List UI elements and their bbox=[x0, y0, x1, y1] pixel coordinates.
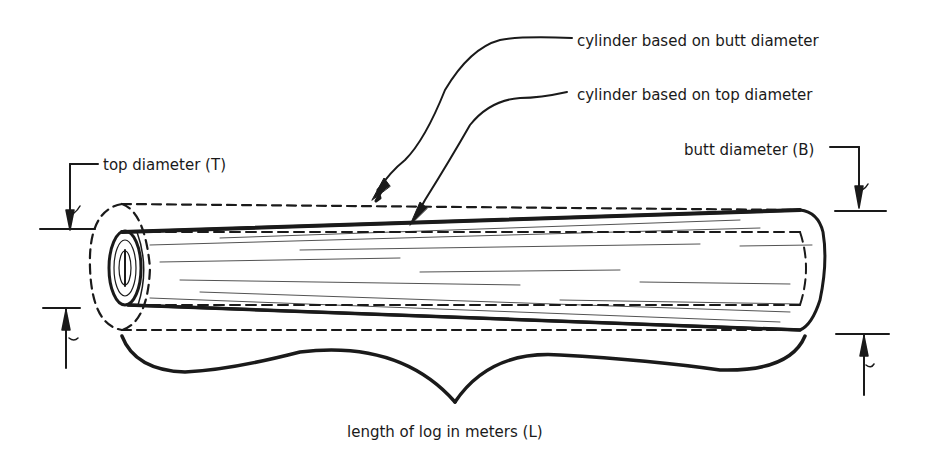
log-body bbox=[122, 210, 825, 330]
length-label: length of log in meters (L) bbox=[347, 423, 543, 441]
length-brace bbox=[122, 336, 805, 402]
top-cylinder-label: cylinder based on top diameter bbox=[577, 86, 813, 104]
log-diagram bbox=[0, 0, 933, 462]
log-top-end bbox=[109, 231, 144, 305]
top-diameter-label: top diameter (T) bbox=[103, 156, 226, 174]
butt-diameter-label: butt diameter (B) bbox=[684, 141, 814, 159]
butt-diameter-dimension bbox=[830, 147, 889, 395]
top-cylinder-leader-arrow bbox=[410, 92, 567, 225]
butt-cylinder-label: cylinder based on butt diameter bbox=[577, 32, 819, 50]
butt-cylinder-leader-arrow bbox=[372, 37, 572, 201]
